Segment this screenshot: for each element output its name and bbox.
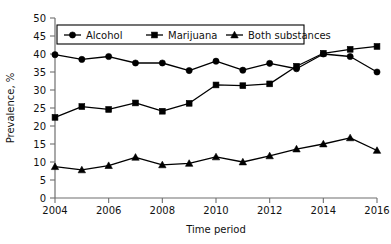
data-point-marijuana (294, 63, 300, 69)
data-point-alcohol (186, 67, 192, 73)
x-tick-label: 2010 (203, 205, 228, 216)
data-point-marijuana (240, 83, 246, 89)
y-tick-label: 40 (33, 49, 46, 60)
legend-label-0: Alcohol (86, 30, 122, 41)
data-point-alcohol (213, 58, 219, 64)
data-point-alcohol (347, 53, 353, 59)
data-point-marijuana (374, 44, 380, 50)
data-point-alcohol (106, 53, 112, 59)
data-point-alcohol (52, 52, 58, 58)
data-point-marijuana (213, 82, 219, 88)
x-tick-label: 2008 (150, 205, 175, 216)
x-axis-title: Time period (185, 224, 246, 235)
data-point-alcohol (159, 60, 165, 66)
x-tick-label: 2014 (311, 205, 336, 216)
chart-legend: AlcoholMarijuanaBoth substances (57, 25, 331, 44)
legend-label-1: Marijuana (168, 30, 217, 41)
x-tick-label: 2006 (96, 205, 121, 216)
y-tick-label: 15 (33, 139, 46, 150)
data-point-alcohol (267, 60, 273, 66)
y-tick-label: 25 (33, 103, 46, 114)
data-point-alcohol (132, 60, 138, 66)
x-tick-label: 2012 (257, 205, 282, 216)
data-point-alcohol (240, 67, 246, 73)
data-point-marijuana (267, 81, 273, 87)
y-tick-label: 10 (33, 157, 46, 168)
y-tick-label: 30 (33, 85, 46, 96)
y-tick-label: 50 (33, 13, 46, 24)
data-point-marijuana (186, 100, 192, 106)
data-point-alcohol (79, 56, 85, 62)
line-chart: 05101520253035404550 2004200620082010201… (0, 0, 391, 244)
legend-label-2: Both substances (248, 30, 331, 41)
data-point-marijuana (133, 100, 139, 106)
data-point-marijuana (347, 46, 353, 52)
data-point-marijuana (159, 108, 165, 114)
square-marker-icon (152, 32, 158, 38)
chart-canvas: 05101520253035404550 2004200620082010201… (0, 0, 391, 244)
x-tick-label: 2004 (42, 205, 67, 216)
x-tick-label: 2016 (364, 205, 389, 216)
data-point-marijuana (106, 107, 112, 113)
y-tick-label: 20 (33, 121, 46, 132)
data-point-alcohol (374, 69, 380, 75)
y-tick-label: 0 (40, 193, 46, 204)
y-axis-title: Prevalence, % (5, 73, 16, 144)
circle-marker-icon (69, 32, 75, 38)
y-tick-label: 45 (33, 31, 46, 42)
data-point-marijuana (320, 50, 326, 56)
data-point-marijuana (52, 114, 58, 120)
y-tick-label: 35 (33, 67, 46, 78)
data-point-marijuana (79, 104, 85, 110)
y-tick-label: 5 (40, 175, 46, 186)
